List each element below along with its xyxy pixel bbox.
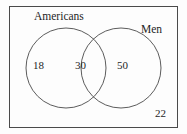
region-value-intersection: 30 <box>75 60 86 71</box>
region-value-americans-only: 18 <box>33 60 44 71</box>
venn-diagram-figure: Americans Men 18 30 50 22 <box>0 0 187 134</box>
region-value-outside: 22 <box>155 108 166 119</box>
set-label-americans: Americans <box>34 11 84 23</box>
set-label-men: Men <box>141 24 162 36</box>
region-value-men-only: 50 <box>117 60 128 71</box>
